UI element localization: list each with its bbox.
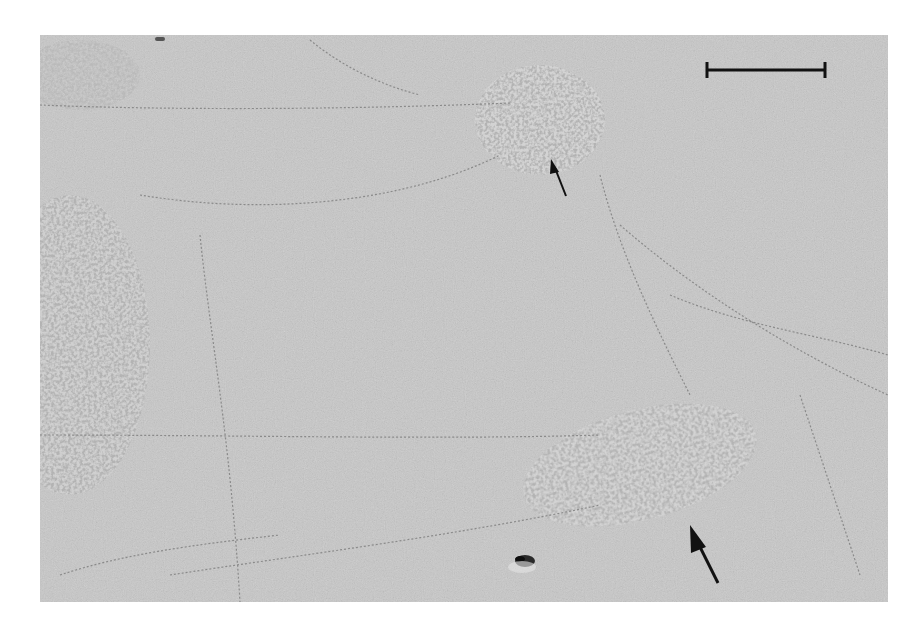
background-field [40, 35, 888, 602]
upper-right-granular-cluster [475, 65, 605, 175]
micrograph-image [40, 35, 888, 602]
small-debris-upper-left [155, 37, 165, 41]
